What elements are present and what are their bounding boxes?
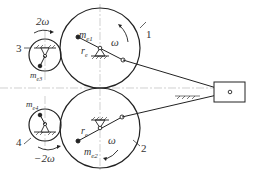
mechanism-diagram: 2ω 3 me3 me1 re ω 1 me4 4 −2ω re me2 ω 2: [0, 0, 260, 173]
gear-1-radius-label: re: [81, 45, 88, 58]
gear-2-mass-label: me2: [84, 146, 98, 160]
gear-1-label: 1: [146, 28, 152, 40]
gear-4-mass-label: me4: [26, 99, 38, 111]
gear-4-speed-label: −2ω: [34, 152, 55, 164]
gear-3-speed-label: 2ω: [36, 15, 49, 27]
gear-2-speed-label: ω: [108, 134, 116, 146]
gear-2-radius-label: re: [81, 125, 88, 138]
gear-4-label: 4: [16, 136, 22, 148]
gear-1-speed-label: ω: [111, 36, 119, 48]
gear-3-label: 3: [16, 42, 22, 54]
gear-2-label: 2: [141, 142, 147, 154]
gear-1-mass-label: me1: [79, 29, 93, 43]
gear-3-mass-label: me3: [30, 70, 42, 82]
